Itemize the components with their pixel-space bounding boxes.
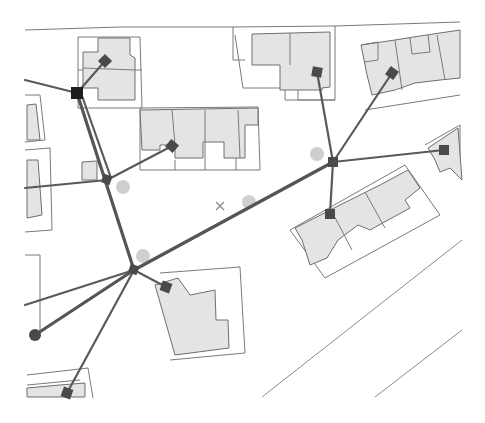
service-line[interactable] (333, 73, 392, 162)
x-marker[interactable] (216, 202, 224, 210)
map-canvas[interactable]: Network service lines over building parc… (0, 0, 485, 423)
service-node[interactable] (311, 66, 323, 78)
trunk-line[interactable] (35, 270, 134, 335)
ghost-circle-layer (116, 147, 324, 263)
service-node[interactable] (325, 209, 335, 219)
endpoint-node[interactable] (71, 87, 83, 99)
endpoint-node[interactable] (29, 329, 41, 341)
service-line[interactable] (333, 150, 444, 162)
ghost-circle[interactable] (116, 180, 130, 194)
hub-node[interactable] (328, 157, 338, 167)
service-node[interactable] (439, 145, 449, 155)
ghost-circle[interactable] (310, 147, 324, 161)
road-layer (262, 240, 462, 397)
trunk-line[interactable] (134, 162, 333, 270)
service-line[interactable] (25, 80, 77, 93)
